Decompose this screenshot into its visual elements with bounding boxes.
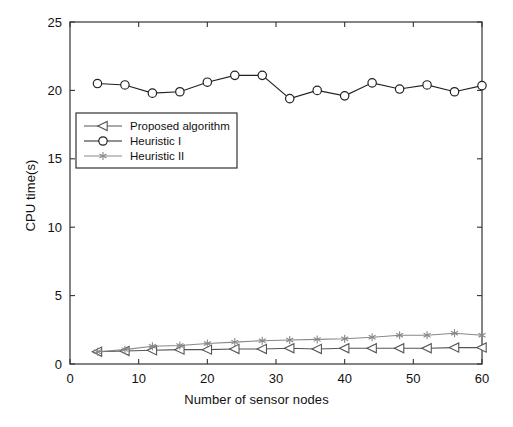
chart-figure: 01020304050600510152025Proposed algorith…	[0, 0, 513, 427]
y-axis-label: CPU time(s)	[23, 96, 38, 296]
x-tick-label: 20	[200, 371, 214, 386]
marker-circle	[258, 71, 266, 79]
x-axis-label: Number of sensor nodes	[0, 392, 513, 407]
marker-circle	[450, 88, 458, 96]
marker-circle	[148, 89, 156, 97]
marker-circle	[286, 94, 294, 102]
series-heuristic-i	[93, 71, 486, 103]
x-tick-label: 0	[66, 371, 73, 386]
legend-label: Heuristic I	[130, 135, 181, 147]
marker-circle	[423, 81, 431, 89]
marker-left-triangle	[394, 344, 403, 353]
marker-circle	[176, 88, 184, 96]
marker-circle	[395, 85, 403, 93]
marker-circle	[203, 78, 211, 86]
legend: Proposed algorithmHeuristic IHeuristic I…	[76, 113, 237, 168]
marker-left-triangle	[312, 344, 321, 353]
marker-circle	[340, 92, 348, 100]
marker-circle	[231, 71, 239, 79]
marker-circle	[93, 79, 101, 87]
y-tick-label: 0	[55, 357, 62, 372]
y-tick-label: 5	[55, 288, 62, 303]
marker-left-triangle	[449, 343, 458, 352]
marker-left-triangle	[367, 344, 376, 353]
marker-circle	[478, 81, 486, 89]
marker-left-triangle	[339, 344, 348, 353]
x-tick-label: 60	[475, 371, 489, 386]
cpu-time-line-chart: 01020304050600510152025Proposed algorith…	[0, 0, 513, 427]
marker-left-triangle	[285, 344, 294, 353]
x-tick-label: 30	[269, 371, 283, 386]
marker-left-triangle	[422, 344, 431, 353]
marker-left-triangle	[257, 344, 266, 353]
y-tick-label: 25	[48, 15, 62, 30]
y-tick-label: 15	[48, 151, 62, 166]
legend-label: Heuristic II	[130, 150, 184, 162]
x-tick-label: 40	[337, 371, 351, 386]
y-tick-label: 10	[48, 220, 62, 235]
marker-circle	[99, 137, 107, 145]
x-tick-label: 50	[406, 371, 420, 386]
legend-label: Proposed algorithm	[130, 120, 230, 132]
x-tick-label: 10	[131, 371, 145, 386]
marker-circle	[368, 79, 376, 87]
marker-circle	[313, 86, 321, 94]
marker-circle	[121, 81, 129, 89]
plot-frame	[70, 22, 482, 364]
y-tick-label: 20	[48, 83, 62, 98]
